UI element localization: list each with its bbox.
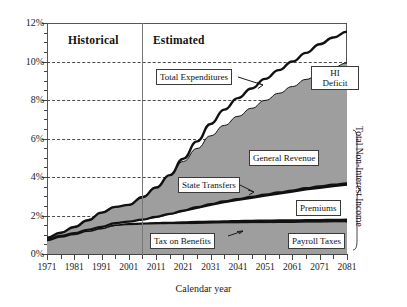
x-tick-mark <box>238 254 239 260</box>
x-minor-tick <box>224 254 225 259</box>
y-tick-label: 0% <box>4 249 44 259</box>
callout-hi-deficit: HI Deficit <box>311 66 359 90</box>
y-tick-label: 6% <box>4 134 44 144</box>
hi-deficit-line2: Deficit <box>318 78 352 88</box>
x-minor-tick <box>306 254 307 259</box>
plot-area <box>47 23 347 254</box>
x-tick-mark <box>292 254 293 260</box>
period-divider <box>142 23 143 255</box>
x-minor-tick <box>333 254 334 259</box>
callout-state-transfers: State Transfers <box>178 177 240 193</box>
chart-root: 0%2%4%6%8%10%12% 19711981199120012011202… <box>0 0 407 307</box>
y-tick-label: 12% <box>4 18 44 28</box>
x-tick-mark <box>265 254 266 260</box>
x-minor-tick <box>115 254 116 259</box>
x-tick-mark <box>183 254 184 260</box>
x-tick-mark <box>129 254 130 260</box>
x-tick-mark <box>211 254 212 260</box>
period-label-historical: Historical <box>68 34 119 46</box>
callout-payroll-taxes: Payroll Taxes <box>288 233 345 249</box>
x-tick-mark <box>102 254 103 260</box>
x-minor-tick <box>61 254 62 259</box>
y-tick-label: 8% <box>4 95 44 105</box>
y-tick-label: 10% <box>4 57 44 67</box>
period-label-estimated: Estimated <box>153 34 205 46</box>
hi-deficit-line1: HI <box>318 68 352 78</box>
callout-total-expenditures: Total Expenditures <box>156 69 232 85</box>
x-axis-title: Calendar year <box>0 283 407 294</box>
label-total-non-interest-income: Total Non-Interest Income <box>354 126 364 254</box>
x-tick-mark <box>320 254 321 260</box>
x-tick-mark <box>156 254 157 260</box>
x-minor-tick <box>170 254 171 259</box>
callout-general-revenue: General Revenue <box>249 150 319 166</box>
y-tick-label: 2% <box>4 211 44 221</box>
x-tick-mark <box>47 254 48 260</box>
chart-series-layer <box>47 23 347 254</box>
callout-premiums: Premiums <box>296 200 341 216</box>
callout-tax-on-benefits: Tax on Benefits <box>150 233 215 249</box>
x-minor-tick <box>88 254 89 259</box>
x-minor-tick <box>252 254 253 259</box>
x-minor-tick <box>279 254 280 259</box>
y-tick-label: 4% <box>4 172 44 182</box>
x-tick-mark <box>347 254 348 260</box>
x-tick-mark <box>74 254 75 260</box>
x-tick-label: 2081 <box>330 262 364 272</box>
x-minor-tick <box>197 254 198 259</box>
